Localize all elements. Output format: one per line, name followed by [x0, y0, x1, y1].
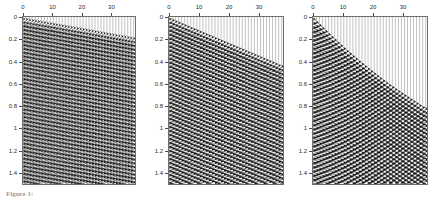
x-tick-label: 20 [79, 4, 86, 10]
x-tick-label: 30 [400, 4, 407, 10]
seismic-gather-figure: 010203000.20.40.60.811.21.4 010203000.20… [0, 0, 440, 204]
y-tickmark [309, 17, 312, 18]
x-tickmark [82, 13, 83, 16]
wiggle-traces-3 [313, 17, 427, 184]
y-tickmark [19, 151, 22, 152]
x-tick-label: 10 [340, 4, 347, 10]
x-tick-label: 20 [370, 4, 377, 10]
y-tickmark [309, 106, 312, 107]
y-tickmark [19, 173, 22, 174]
plot-area-1 [22, 16, 136, 185]
y-tickmark [19, 84, 22, 85]
y-tickmark [309, 84, 312, 85]
y-tickmark [19, 39, 22, 40]
y-tick-label: 0.6 [144, 81, 163, 87]
y-tickmark [19, 17, 22, 18]
caption-number: 1: [27, 190, 33, 198]
y-tickmark [19, 62, 22, 63]
y-tick-label: 0.8 [288, 103, 307, 109]
y-tickmark [19, 106, 22, 107]
x-tickmark [259, 13, 260, 16]
caption-prefix: Figure [6, 190, 26, 198]
x-tickmark [199, 13, 200, 16]
y-tickmark [165, 39, 168, 40]
y-tick-label: 1.4 [144, 170, 163, 176]
y-tick-label: 0.4 [144, 59, 163, 65]
y-tick-label: 0.8 [144, 103, 163, 109]
x-tickmark [169, 13, 170, 16]
y-tickmark [165, 106, 168, 107]
y-tick-label: 0.4 [288, 59, 307, 65]
y-tickmark [165, 128, 168, 129]
y-tick-label: 0.2 [288, 36, 307, 42]
x-tickmark [229, 13, 230, 16]
x-tick-label: 0 [311, 4, 314, 10]
x-tick-label: 0 [21, 4, 24, 10]
y-tick-label: 1 [0, 125, 17, 131]
y-tick-label: 1.4 [0, 170, 17, 176]
figure-caption: Figure 1: [6, 190, 436, 199]
y-tick-label: 1.2 [0, 148, 17, 154]
x-tick-label: 30 [256, 4, 263, 10]
y-tickmark [165, 151, 168, 152]
y-tick-label: 0 [0, 14, 17, 20]
y-tick-label: 0.2 [0, 36, 17, 42]
y-tick-label: 0.6 [288, 81, 307, 87]
y-tick-label: 0.2 [144, 36, 163, 42]
x-tick-label: 10 [196, 4, 203, 10]
y-tickmark [309, 128, 312, 129]
x-tickmark [403, 13, 404, 16]
y-tickmark [19, 128, 22, 129]
y-tickmark [309, 173, 312, 174]
y-tick-label: 0 [288, 14, 307, 20]
y-tickmark [165, 62, 168, 63]
x-tickmark [373, 13, 374, 16]
y-tick-label: 1.2 [144, 148, 163, 154]
x-tickmark [313, 13, 314, 16]
y-tick-label: 0 [144, 14, 163, 20]
x-tick-label: 10 [49, 4, 56, 10]
x-tickmark [23, 13, 24, 16]
y-tick-label: 1 [144, 125, 163, 131]
y-tickmark [309, 39, 312, 40]
y-tick-label: 0.8 [0, 103, 17, 109]
x-tickmark [343, 13, 344, 16]
y-tickmark [309, 62, 312, 63]
y-tick-label: 1.2 [288, 148, 307, 154]
x-tick-label: 30 [108, 4, 115, 10]
y-tick-label: 1.4 [288, 170, 307, 176]
y-tick-label: 0.4 [0, 59, 17, 65]
wiggle-traces-2 [169, 17, 283, 184]
x-tick-label: 0 [167, 4, 170, 10]
y-tickmark [165, 17, 168, 18]
wiggle-traces-1 [23, 17, 135, 184]
plot-area-2 [168, 16, 284, 185]
y-tick-label: 1 [288, 125, 307, 131]
y-tickmark [165, 173, 168, 174]
y-tickmark [309, 151, 312, 152]
plot-area-3 [312, 16, 428, 185]
x-tickmark [52, 13, 53, 16]
y-tickmark [165, 84, 168, 85]
x-tick-label: 20 [226, 4, 233, 10]
x-tickmark [111, 13, 112, 16]
y-tick-label: 0.6 [0, 81, 17, 87]
